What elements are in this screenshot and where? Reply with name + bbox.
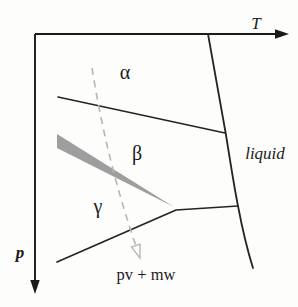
y-axis-arrowhead-icon	[30, 280, 39, 294]
y-axis-label: p	[14, 243, 25, 262]
phase-diagram-figure: T p α β γ liquid pv + mw	[0, 0, 298, 307]
process-path-dashed-arrow	[92, 68, 136, 246]
region-label-pv-mw: pv + mw	[117, 265, 176, 284]
x-axis-arrowhead-icon	[275, 29, 289, 38]
region-label-liquid: liquid	[245, 144, 285, 163]
x-axis-label: T	[251, 14, 262, 33]
two-phase-wedge	[57, 134, 174, 207]
phase-diagram-canvas: T p α β γ liquid pv + mw	[0, 0, 298, 307]
region-label-gamma: γ	[93, 195, 103, 218]
gamma-lower-boundary	[57, 206, 238, 262]
alpha-beta-boundary	[58, 97, 225, 133]
process-path-arrowhead-icon	[132, 244, 141, 258]
region-label-beta: β	[132, 142, 142, 165]
region-label-alpha: α	[120, 61, 131, 83]
